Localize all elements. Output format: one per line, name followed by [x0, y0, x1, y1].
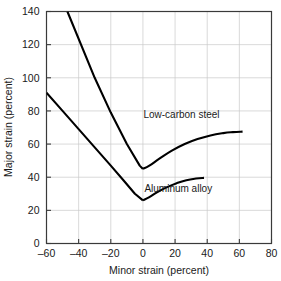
x-tick-label: 40 — [201, 247, 213, 259]
series-annotation-label: Low-carbon steel — [143, 109, 219, 120]
y-tick-label: 60 — [28, 138, 40, 150]
y-tick-label: 120 — [22, 38, 40, 50]
y-tick-label: 40 — [28, 171, 40, 183]
y-axis-title: Major strain (percent) — [2, 77, 14, 177]
forming-limit-diagram: –60–40–20020406080 020406080100120140 Lo… — [0, 0, 281, 281]
x-axis-title: Minor strain (percent) — [109, 264, 209, 276]
x-tick-label: 60 — [234, 247, 246, 259]
y-tick-label: 20 — [28, 204, 40, 216]
series-annotation-label: Aluminum alloy — [144, 183, 212, 194]
x-tick-label: 0 — [140, 247, 146, 259]
chart-background — [0, 0, 281, 281]
y-tick-label: 80 — [28, 105, 40, 117]
x-tick-label: 20 — [169, 247, 181, 259]
chart-canvas: –60–40–20020406080 020406080100120140 Lo… — [0, 0, 281, 281]
x-tick-label: –20 — [102, 247, 120, 259]
y-tick-label: 0 — [34, 237, 40, 249]
y-tick-label: 100 — [22, 72, 40, 84]
x-tick-label: –40 — [70, 247, 88, 259]
x-tick-label: 80 — [266, 247, 278, 259]
x-tick-label: –60 — [38, 247, 56, 259]
y-tick-label: 140 — [22, 5, 40, 17]
